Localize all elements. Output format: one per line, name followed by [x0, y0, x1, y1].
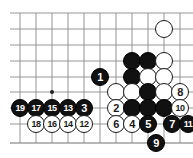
move-number-label: 13: [63, 104, 72, 113]
move-number-label: 10: [175, 104, 184, 113]
black-stone-move-1[interactable]: 1: [91, 68, 109, 86]
move-number-label: 1: [97, 72, 103, 83]
move-number-label: 4: [129, 119, 135, 130]
go-board-diagram: 18191715133210181614126457119: [0, 0, 193, 158]
move-number-label: 18: [31, 120, 40, 129]
move-number-label: 5: [145, 119, 151, 130]
white-stone-move-12[interactable]: 12: [75, 115, 93, 133]
stone-layer: 18191715133210181614126457119: [0, 0, 193, 158]
move-number-label: 8: [177, 87, 183, 98]
move-number-label: 2: [113, 103, 119, 114]
move-number-label: 15: [47, 104, 56, 113]
black-stone-move-9[interactable]: 9: [147, 134, 165, 152]
move-number-label: 14: [63, 120, 72, 129]
move-number-label: 6: [113, 119, 119, 130]
white-stone[interactable]: [155, 20, 173, 38]
move-number-label: 17: [31, 104, 40, 113]
move-number-label: 9: [153, 138, 159, 149]
move-number-label: 3: [81, 103, 87, 114]
move-number-label: 7: [169, 119, 175, 130]
move-number-label: 12: [79, 120, 88, 129]
move-number-label: 11: [184, 120, 193, 129]
move-number-label: 19: [15, 104, 24, 113]
black-stone-move-11[interactable]: 11: [179, 115, 193, 133]
move-number-label: 16: [47, 120, 56, 129]
black-stone-move-5[interactable]: 5: [139, 115, 157, 133]
star-point-hoshi: [50, 90, 54, 94]
